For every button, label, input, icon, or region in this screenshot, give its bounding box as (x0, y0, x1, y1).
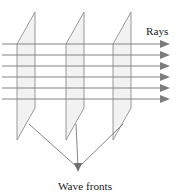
ray-arrowhead-1 (160, 40, 170, 48)
wave-fronts-leader-group (29, 124, 123, 172)
wave-front-plane-3 (113, 12, 131, 140)
ray-arrowhead-6 (160, 95, 170, 103)
ray-arrowhead-2 (160, 51, 170, 59)
leader-arrowhead (74, 163, 82, 172)
leader-line-plane-2 (76, 124, 78, 168)
rays-label: Rays (146, 25, 168, 37)
wave-front-plane-2 (66, 12, 84, 140)
ray-arrowhead-3 (160, 62, 170, 70)
wave-front-plane-1 (17, 12, 35, 140)
diagram-canvas: Rays Wave fronts (0, 0, 181, 196)
ray-arrowhead-4 (160, 73, 170, 81)
wave-front-ray-diagram: Rays Wave fronts (0, 0, 181, 196)
ray-arrowhead-5 (160, 84, 170, 92)
wave-fronts-label: Wave fronts (58, 180, 112, 192)
leader-line-plane-3 (78, 124, 123, 168)
